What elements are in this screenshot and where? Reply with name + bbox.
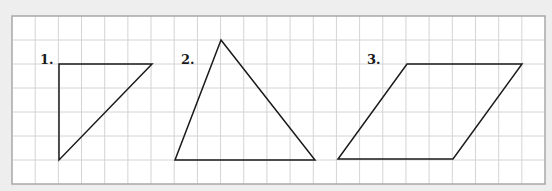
- figure-1-label: 1.: [40, 53, 54, 66]
- grid-paper: [0, 0, 552, 191]
- grid-background: [12, 16, 545, 184]
- diagram-canvas: 1. 2. 3.: [0, 0, 552, 191]
- figure-2-label: 2.: [181, 53, 195, 66]
- figure-3-label: 3.: [367, 53, 381, 66]
